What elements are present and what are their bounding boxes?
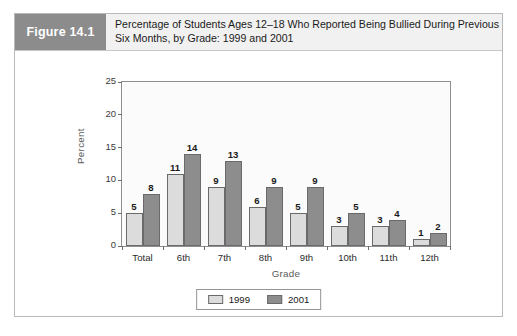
bar-1999-7th: 9 (208, 187, 225, 246)
bar-group: 59 (290, 82, 324, 246)
bar-group: 69 (249, 82, 283, 246)
legend-item-1999: 1999 (208, 294, 250, 305)
bar-value-label: 9 (271, 175, 276, 186)
bar-value-label: 3 (377, 214, 382, 225)
bar-1999-6th: 11 (167, 174, 184, 246)
figure-number-badge: Figure 14.1 (15, 14, 106, 50)
y-axis-tick-label: 0 (111, 239, 116, 250)
bar-value-label: 9 (213, 175, 218, 186)
bar-2001-7th: 13 (225, 161, 242, 246)
bar-value-label: 11 (170, 162, 180, 173)
bar-2001-12th: 2 (430, 233, 447, 246)
bar-value-label: 13 (228, 149, 239, 160)
x-axis-tick-mark (450, 246, 451, 250)
x-axis-tick-mark (409, 246, 410, 250)
bar-value-label: 2 (435, 221, 440, 232)
bar-1999-10th: 3 (331, 226, 348, 246)
x-axis-tick-mark (245, 246, 246, 250)
bars-layer: 5811149136959353412 (122, 82, 450, 246)
bar-2001-9th: 9 (307, 187, 324, 246)
bar-2001-11th: 4 (389, 220, 406, 246)
x-axis-tick-mark (368, 246, 369, 250)
y-axis-title: Percent (75, 128, 86, 164)
x-axis-category-label: 12th (420, 252, 439, 263)
figure-title-line-2: Six Months, by Grade: 1999 and 2001 (115, 31, 499, 45)
x-axis-title: Grade (121, 268, 451, 279)
x-axis-category-label: 9th (300, 252, 313, 263)
bar-2001-10th: 5 (348, 213, 365, 246)
x-axis-tick-mark (204, 246, 205, 250)
chart-canvas: Percent 0510152025 5811149136959353412 T… (15, 51, 502, 316)
bar-group: 35 (331, 82, 365, 246)
x-axis-tick-mark (163, 246, 164, 250)
bar-value-label: 5 (353, 201, 358, 212)
bar-value-label: 6 (254, 195, 259, 206)
bar-1999-9th: 5 (290, 213, 307, 246)
plot-area: 0510152025 5811149136959353412 Total6th7… (121, 81, 451, 247)
x-axis-category-label: 11th (380, 252, 398, 263)
bar-group: 1114 (167, 82, 201, 246)
bar-group: 12 (413, 82, 447, 246)
bar-group: 34 (372, 82, 406, 246)
y-axis-tick-label: 10 (105, 173, 116, 184)
y-axis-tick-label: 20 (105, 108, 116, 119)
figure-title: Percentage of Students Ages 12–18 Who Re… (106, 14, 508, 50)
y-axis-tick-label: 25 (105, 75, 116, 86)
bar-1999-12th: 1 (413, 239, 430, 246)
y-axis-tick-label: 15 (105, 141, 116, 152)
bar-value-label: 5 (295, 201, 300, 212)
x-axis-tick-mark (286, 246, 287, 250)
legend-item-2001: 2001 (267, 294, 309, 305)
legend-label: 2001 (288, 294, 309, 305)
x-axis-tick-mark (122, 246, 123, 250)
bar-1999-11th: 3 (372, 226, 389, 246)
bar-value-label: 14 (187, 142, 198, 153)
bar-group: 58 (126, 82, 160, 246)
bar-value-label: 8 (148, 182, 153, 193)
legend-swatch (267, 295, 282, 304)
figure-container: Figure 14.1 Percentage of Students Ages … (14, 13, 503, 317)
bar-2001-6th: 14 (184, 154, 201, 246)
bar-value-label: 9 (312, 175, 317, 186)
figure-header: Figure 14.1 Percentage of Students Ages … (15, 14, 502, 51)
bar-1999-8th: 6 (249, 207, 266, 246)
bar-value-label: 1 (418, 227, 423, 238)
chart-legend: 19992001 (196, 289, 322, 310)
x-axis-tick-mark (327, 246, 328, 250)
x-axis-category-label: 8th (259, 252, 272, 263)
bar-value-label: 4 (394, 208, 399, 219)
y-axis-tick-label: 5 (111, 206, 116, 217)
bar-group: 913 (208, 82, 242, 246)
bar-1999-Total: 5 (126, 213, 143, 246)
legend-label: 1999 (229, 294, 250, 305)
bar-value-label: 3 (336, 214, 341, 225)
x-axis-category-label: 6th (177, 252, 190, 263)
x-axis-category-label: 7th (218, 252, 231, 263)
x-axis-category-label: 10th (338, 252, 357, 263)
figure-title-line-1: Percentage of Students Ages 12–18 Who Re… (115, 17, 499, 31)
bar-value-label: 5 (131, 201, 136, 212)
x-axis-category-label: Total (132, 252, 152, 263)
legend-swatch (208, 295, 223, 304)
bar-2001-Total: 8 (143, 194, 160, 246)
bar-2001-8th: 9 (266, 187, 283, 246)
